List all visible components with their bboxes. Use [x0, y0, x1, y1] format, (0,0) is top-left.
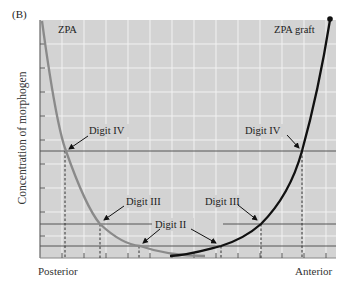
annotation-right-digit-iv: Digit IV	[245, 125, 281, 136]
zpa-label: ZPA	[58, 24, 77, 35]
x-axis-label-posterior: Posterior	[38, 265, 78, 277]
annotation-left-digit-iii: Digit III	[126, 196, 161, 207]
x-axis-label-anterior: Anterior	[295, 265, 332, 277]
graft-source-dot	[327, 16, 333, 22]
annotation-right-digit-iii: Digit III	[205, 196, 240, 207]
zpa-graft-label: ZPA graft	[274, 24, 315, 35]
annotation-left-digit-iv: Digit IV	[89, 125, 125, 136]
morphogen-gradient-chart: ZPA ZPA graft Digit IV Digit III Digit I…	[0, 0, 351, 295]
annotation-center-digit-ii: Digit II	[155, 219, 187, 230]
